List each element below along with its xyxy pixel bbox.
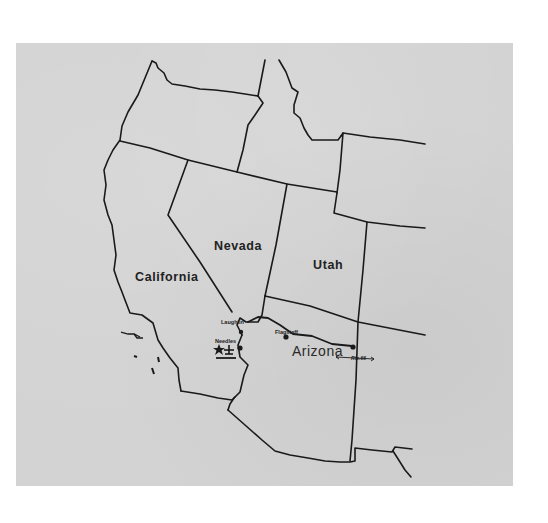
needles-dot [237,345,242,350]
island-4 [134,356,137,357]
mt-wy-border [341,133,425,144]
nv-az-border [237,296,265,335]
wa-or-border [152,61,258,96]
id-wy-border [337,133,343,193]
flagstaff-dot [283,334,288,339]
city-label-laughlin: Laughlin [221,319,244,325]
wa-id-border [258,60,265,96]
state-label-arizona: Arizona [292,343,343,359]
route-66-line [248,317,352,346]
colorado-river [228,335,248,410]
city-label-needles: Needles [215,338,236,344]
map-panel: California Nevada Utah Arizona Laughlin … [16,43,513,486]
or-id-border [237,96,263,172]
42nd-parallel [120,141,337,192]
az-mexico-border [228,410,412,462]
island-3 [152,368,154,374]
island-2 [158,357,159,362]
nm-tx-border [393,451,411,477]
nv-ut-border [265,184,287,296]
state-borders [16,43,513,486]
route-end-dot [350,344,355,349]
star-icon [213,344,225,355]
az-nm-border [350,322,358,461]
island-1 [121,332,140,337]
west-coast [104,61,181,391]
ca-mexico-border [181,391,235,400]
ut-co-border [358,222,367,322]
state-label-california: California [135,270,199,284]
id-mt-border [279,60,341,140]
state-label-utah: Utah [313,258,343,272]
wy-south-border [334,193,425,228]
city-label-flagstaff: Flagstaff [275,329,298,335]
ca-nv-border [168,160,232,312]
laughlin-dot [239,330,243,334]
airport-icon [224,345,234,354]
state-label-nevada: Nevada [214,239,262,253]
route-label-rte66: Rte.66 [351,355,366,361]
